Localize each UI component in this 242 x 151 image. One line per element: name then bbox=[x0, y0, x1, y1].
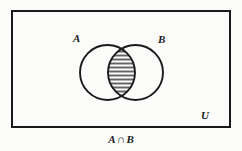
set-b-label: B bbox=[158, 34, 166, 45]
universal-set-rectangle bbox=[11, 10, 231, 128]
universal-set-label: U bbox=[201, 110, 209, 121]
figure-caption: A∩B bbox=[0, 134, 242, 145]
caption-intersection-operator: ∩ bbox=[116, 133, 127, 145]
venn-diagram-figure: A B U A∩B bbox=[0, 0, 242, 151]
caption-right-operand: B bbox=[126, 133, 133, 145]
caption-left-operand: A bbox=[108, 133, 115, 145]
set-a-label: A bbox=[73, 33, 81, 44]
